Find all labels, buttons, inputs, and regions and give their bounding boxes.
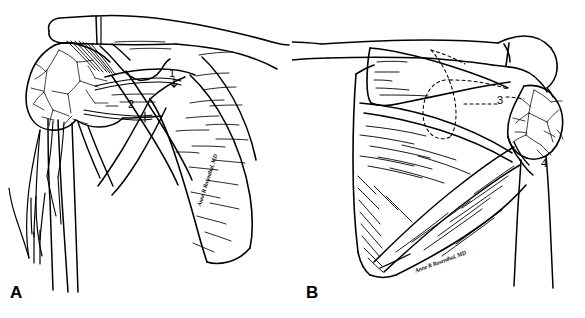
panel-a: A 1 2 Anne R Rosenthal, MD bbox=[0, 0, 292, 318]
acromion-process bbox=[176, 42, 289, 69]
scapula-axillary-border bbox=[202, 57, 256, 160]
scapular-spine-ridge bbox=[360, 103, 512, 162]
infraspinatus-divider bbox=[374, 147, 520, 272]
panel-a-drawing bbox=[0, 0, 292, 318]
humeral-head-trabecular-texture bbox=[31, 50, 108, 126]
label-4: 4 bbox=[541, 158, 547, 169]
supraspinous-fossa-striations bbox=[374, 61, 428, 96]
muscle-striation-group-upper bbox=[67, 41, 115, 74]
scapula-hatching bbox=[176, 52, 248, 252]
scapula-inferior-angle bbox=[380, 254, 410, 268]
label-2: 2 bbox=[128, 99, 134, 110]
acromion-lateral bbox=[516, 68, 553, 97]
humeral-head-posterior-outline bbox=[508, 85, 563, 159]
subscapularis-outline bbox=[105, 69, 195, 118]
scapula-body-outline bbox=[150, 75, 252, 264]
arm-muscle-fibers bbox=[9, 130, 45, 264]
panel-a-letter: A bbox=[10, 284, 22, 301]
panel-b-letter: B bbox=[306, 284, 318, 301]
label-3: 3 bbox=[497, 95, 503, 106]
teres-band bbox=[78, 122, 113, 186]
clavicle-outline bbox=[49, 16, 272, 45]
figure-root: A 1 2 Anne R Rosenthal, MD bbox=[0, 0, 585, 318]
panel-b: B 3 4 Anne R Rosenthal, MD bbox=[292, 0, 585, 318]
glenoid-dashed-outline bbox=[423, 50, 508, 139]
humeral-head-outline bbox=[26, 43, 80, 130]
label-1: 1 bbox=[169, 68, 175, 79]
humerus-shaft-posterior bbox=[514, 156, 553, 288]
humerus-shaft-outline bbox=[48, 119, 78, 292]
